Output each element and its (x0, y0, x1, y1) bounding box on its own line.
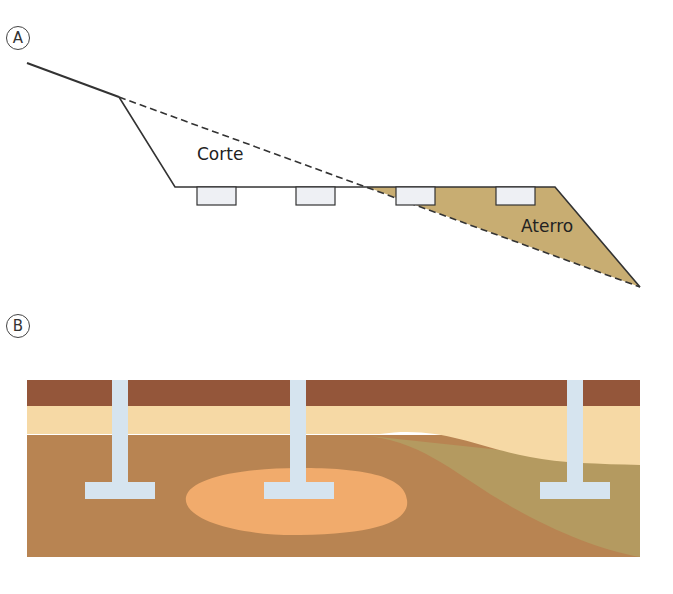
cut-fill-diagram: Corte Aterro (0, 0, 673, 300)
panel-label-b: B (6, 314, 30, 338)
foundation-block (296, 187, 335, 205)
foundation-block (496, 187, 535, 205)
panel-label-a: A (6, 26, 30, 50)
panel-b-soil-profile: B (0, 300, 673, 594)
fill-label: Aterro (521, 216, 573, 236)
foundation-block (197, 187, 236, 205)
panel-a-cut-and-fill: A Corte Aterro (0, 0, 673, 300)
original-ground-line (27, 63, 119, 97)
foundation-block (396, 187, 435, 205)
cut-label: Corte (197, 144, 243, 164)
soil-profile-diagram (0, 300, 673, 594)
